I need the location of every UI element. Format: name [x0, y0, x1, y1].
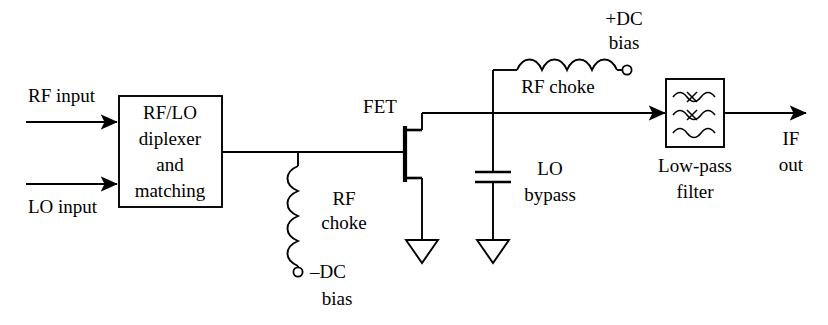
rf-input-label: RF input	[28, 85, 95, 107]
lo-bypass-label-line2: bypass	[524, 184, 576, 206]
diplexer-label-line1: RF/LO	[143, 102, 197, 124]
gate-rf-choke-coil	[288, 166, 299, 266]
circuit-diagram-canvas: RF input LO input RF/LO diplexer and mat…	[0, 0, 828, 325]
drain-rf-choke-coil	[517, 60, 617, 71]
bypass-ground-symbol	[477, 240, 509, 263]
low-pass-filter-label-line1: Low-pass	[658, 155, 732, 177]
gate-rf-choke-label-line2: choke	[321, 212, 366, 234]
positive-dc-bias-terminal	[622, 65, 631, 74]
negative-dc-bias-terminal	[293, 267, 302, 276]
source-ground-symbol	[406, 240, 438, 263]
negative-dc-bias-label-line2: bias	[322, 288, 353, 310]
low-pass-filter-label-line2: filter	[677, 181, 714, 203]
lo-input-label: LO input	[28, 196, 97, 218]
negative-dc-bias-label-line1: –DC	[310, 261, 346, 283]
lo-bypass-label-line1: LO	[537, 158, 562, 180]
fet-label: FET	[363, 96, 397, 118]
diplexer-label-line4: matching	[135, 180, 206, 202]
if-out-label-line2: out	[779, 154, 803, 176]
diplexer-label-line2: diplexer	[139, 128, 201, 150]
positive-dc-bias-label-line1: +DC	[605, 8, 642, 30]
positive-dc-bias-label-line2: bias	[609, 32, 640, 54]
diplexer-label-line3: and	[156, 154, 183, 176]
gate-rf-choke-label-line1: RF	[332, 188, 355, 210]
if-out-label-line1: IF	[783, 128, 800, 150]
drain-rf-choke-label: RF choke	[521, 76, 594, 98]
